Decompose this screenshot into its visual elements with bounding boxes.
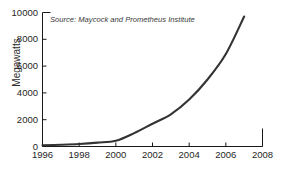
axis-lines [43,13,263,147]
chart-figure: Megawatts 0200040006000800010000 1996199… [0,0,281,170]
source-annotation: Source: Maycock and Prometheus Institute [50,15,195,24]
plot-area [0,0,281,170]
data-series-line [43,17,245,146]
y-axis-ticks [43,39,47,146]
